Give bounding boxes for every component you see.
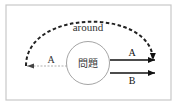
left-arrow-label: A <box>47 54 55 65</box>
diagram-canvas: around A 問題 A B <box>0 0 174 105</box>
right-arrow-b-label: B <box>129 75 136 86</box>
center-label: 問題 <box>78 58 98 69</box>
arc-label: around <box>73 21 104 33</box>
right-arrow-a-label: A <box>128 47 136 58</box>
